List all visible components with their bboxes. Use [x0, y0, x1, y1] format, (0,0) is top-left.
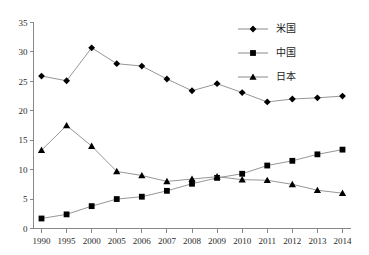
- data-point-marker: [39, 216, 45, 222]
- data-point-marker: [164, 188, 170, 194]
- data-point-marker: [250, 26, 257, 33]
- x-tick-label: 2014: [334, 236, 353, 246]
- data-point-marker: [250, 50, 256, 56]
- data-point-marker: [315, 151, 321, 157]
- x-tick-label: 2008: [183, 236, 202, 246]
- x-tick-label: 2010: [233, 236, 252, 246]
- y-tick-label: 10: [19, 165, 29, 175]
- legend-label: 日本: [276, 70, 296, 82]
- data-point-marker: [239, 171, 245, 177]
- x-tick-label: 1990: [33, 236, 52, 246]
- line-chart: 05101520253035 1990199520002005200620072…: [0, 0, 369, 255]
- data-point-marker: [289, 158, 295, 164]
- data-series-group: [38, 44, 346, 221]
- legend-label: 中国: [276, 46, 296, 58]
- x-tick-label: 2006: [133, 236, 152, 246]
- x-tick-label: 2013: [308, 236, 327, 246]
- data-point-marker: [139, 194, 145, 200]
- data-point-marker: [189, 87, 196, 94]
- data-point-marker: [38, 73, 45, 80]
- data-point-marker: [114, 196, 120, 202]
- x-tick-label: 2005: [108, 236, 127, 246]
- y-tick-label: 15: [19, 135, 29, 145]
- x-tick-label: 1995: [58, 236, 77, 246]
- data-point-marker: [314, 94, 321, 101]
- data-point-marker: [138, 63, 145, 70]
- data-point-marker: [340, 147, 346, 153]
- y-tick-label: 25: [19, 77, 29, 87]
- data-point-marker: [289, 96, 296, 103]
- chart-legend: 米国中国日本: [232, 16, 354, 92]
- legend-item[interactable]: 米国: [238, 22, 296, 34]
- x-tick-label: 2012: [283, 236, 301, 246]
- legend-item[interactable]: 中国: [238, 46, 296, 58]
- legend-item[interactable]: 日本: [238, 70, 296, 82]
- data-point-marker: [88, 44, 95, 51]
- x-axis: 1990199520002005200620072008200920102011…: [33, 229, 353, 246]
- data-point-marker: [63, 77, 70, 84]
- data-point-marker: [63, 122, 70, 128]
- data-point-marker: [89, 203, 95, 209]
- x-tick-label: 2000: [83, 236, 102, 246]
- data-point-marker: [164, 76, 171, 83]
- data-point-marker: [239, 89, 246, 96]
- y-tick-label: 30: [19, 47, 29, 57]
- data-point-marker: [113, 60, 120, 67]
- data-point-marker: [214, 80, 221, 87]
- data-point-marker: [264, 99, 271, 106]
- chart-plot-area: 05101520253035 1990199520002005200620072…: [0, 0, 369, 255]
- x-tick-label: 2011: [258, 236, 276, 246]
- x-tick-label: 2009: [208, 236, 227, 246]
- legend-label: 米国: [276, 22, 296, 34]
- y-axis: 05101520253035: [19, 18, 34, 234]
- data-series: [38, 44, 346, 105]
- y-tick-label: 35: [19, 18, 29, 28]
- data-point-marker: [264, 163, 270, 169]
- data-point-marker: [64, 211, 70, 217]
- x-tick-label: 2007: [158, 236, 177, 246]
- data-series: [39, 147, 346, 222]
- data-point-marker: [339, 93, 346, 100]
- y-tick-label: 0: [23, 224, 28, 234]
- y-tick-label: 5: [23, 194, 28, 204]
- y-tick-label: 20: [19, 106, 29, 116]
